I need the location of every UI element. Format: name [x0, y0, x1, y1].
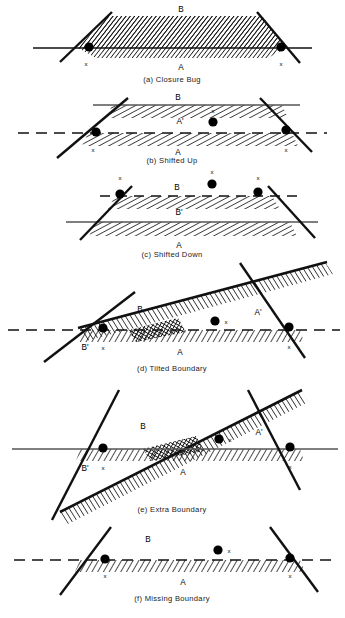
panel-a-caption: (a) Closure Bug: [143, 75, 201, 84]
panel-b-caption: (b) Shifted Up: [146, 156, 197, 165]
panel-d-horizontal-hatch: [78, 330, 304, 342]
panel-e-xmark-right: x: [288, 463, 292, 470]
panel-f-dot-middle: [213, 545, 222, 554]
panel-b-xmark-left: x: [91, 146, 95, 153]
panel-c-upper-hatch: [108, 196, 280, 209]
panel-f-caption: (f) Missing Boundary: [134, 594, 210, 603]
figure-container: B A x x (a) Closure Bug B A' A x x x (b)…: [0, 0, 345, 618]
panel-d-label-B: B: [137, 305, 143, 314]
panel-c-label-B: B: [174, 183, 180, 192]
panel-d-caption: (d) Tilted Boundary: [137, 364, 207, 373]
panel-a: B A x x (a) Closure Bug: [33, 5, 312, 84]
panel-c-label-A: A: [176, 241, 182, 250]
panel-d-dot-left: [98, 323, 107, 332]
panel-c-xmark-right: x: [256, 174, 260, 181]
panel-c-xmark-middle: x: [210, 168, 214, 175]
panel-c-lower-hatch: [89, 222, 297, 236]
panel-f-dot-left: [100, 554, 109, 563]
panel-e-caption: (e) Extra Boundary: [137, 505, 206, 514]
panel-f-xmark-middle: x: [227, 547, 231, 554]
panel-c-dot-right: [253, 187, 262, 196]
panel-d-tilted-edge: [78, 262, 327, 328]
panel-a-dot-right: [276, 42, 285, 51]
panel-d-xmark-right: x: [287, 343, 291, 350]
panel-e-label-Aprime: A': [255, 428, 262, 437]
panel-a-xmark-left: x: [84, 60, 88, 67]
panel-a-label-B: B: [178, 5, 184, 14]
panel-f-xmark-right: x: [288, 572, 292, 579]
panel-b-dot-right: [281, 125, 290, 134]
panel-d-xmark-middle: x: [224, 318, 228, 325]
panel-d-tilted-band: [78, 262, 333, 341]
panel-e-dot-left: [98, 443, 107, 452]
panel-b-label-B: B: [175, 93, 181, 102]
panel-d-label-Bprime: B': [81, 343, 88, 352]
panel-e: B B' A A' x x x (e) Extra Boundary: [12, 390, 338, 524]
panel-a-xmark-right: x: [279, 60, 283, 67]
panel-c-dot-middle: [207, 179, 216, 188]
panel-c-label-Bprime: B': [175, 208, 182, 217]
panel-c-dot-left: [115, 189, 124, 198]
panel-f-dot-right: [285, 553, 294, 562]
panel-b: B A' A x x x (b) Shifted Up: [18, 93, 327, 165]
panel-b-xmark-right: x: [284, 146, 288, 153]
panel-f: B A x x x (f) Missing Boundary: [14, 527, 336, 603]
panel-d-dot-right: [284, 322, 293, 331]
panel-c: B B' A x x x (c) Shifted Down: [66, 168, 318, 259]
panel-d-xmark-left: x: [101, 344, 105, 351]
panel-b-upper-hatch: [107, 105, 288, 118]
panel-f-hatch-band: [75, 560, 305, 572]
panel-d-label-A: A: [177, 348, 183, 357]
panel-e-xmark-left: x: [101, 464, 105, 471]
panel-d: B B' A A' x x x (d) Tilted Boundary: [8, 262, 340, 373]
panel-e-label-Bprime: B': [81, 464, 88, 473]
panel-e-dot-right: [285, 442, 294, 451]
panel-a-upper-band: [78, 16, 286, 48]
panel-c-xmark-left: x: [118, 174, 122, 181]
panel-c-caption: (c) Shifted Down: [142, 250, 203, 259]
panel-e-label-B: B: [140, 422, 146, 431]
panel-e-label-A: A: [180, 468, 186, 477]
panel-a-dot-left: [84, 42, 93, 51]
panel-a-label-A: A: [178, 63, 184, 72]
panel-e-dot-middle: [214, 434, 223, 443]
panel-b-dot-middle: [208, 117, 217, 126]
panel-b-lower-hatch: [82, 133, 298, 146]
panel-f-xmark-left: x: [103, 572, 107, 579]
panel-f-label-A: A: [180, 578, 186, 587]
panel-f-label-B: B: [145, 535, 151, 544]
panel-b-label-Aprime: A': [176, 117, 183, 126]
panel-d-label-Aprime: A': [254, 308, 261, 317]
panel-d-dot-middle: [210, 316, 219, 325]
panel-b-dot-left: [91, 127, 100, 136]
